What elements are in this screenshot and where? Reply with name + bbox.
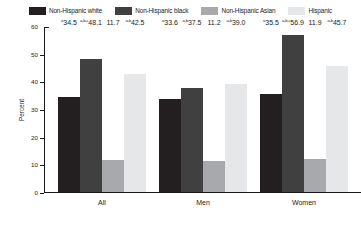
y-axis-tick: [40, 165, 44, 166]
legend-item-non-hispanic-asian: Non-Hispanic Asian: [201, 7, 275, 15]
bar-group-bars: a35.5a,b,c56.911.9a,b45.7: [260, 27, 348, 192]
bar[interactable]: [80, 59, 102, 192]
significance-superscript: a,b: [227, 18, 232, 23]
bar-value-label: a35.5: [263, 19, 279, 27]
y-axis-tick-label: 20: [31, 135, 38, 141]
significance-superscript: a,b: [183, 18, 188, 23]
legend-label-hispanic: Hispanic: [308, 8, 332, 14]
bar-column[interactable]: a33.6: [159, 27, 181, 192]
bar-column[interactable]: 11.7: [102, 27, 124, 192]
bar-value-label: a,b45.7: [328, 19, 347, 27]
legend-item-non-hispanic-black: Non-Hispanic black: [115, 7, 188, 15]
y-axis-tick-label: 50: [31, 52, 38, 58]
bar-column[interactable]: 11.9: [304, 27, 326, 192]
plot-area: Percent 0102030405060 a34.5a,b,c48.111.7…: [44, 27, 344, 193]
y-axis-tick: [40, 110, 44, 111]
significance-superscript: a,b: [328, 18, 333, 23]
bar-value-label: a,b,c48.1: [80, 19, 102, 27]
bar-group: a34.5a,b,c48.111.7a,b42.5All: [58, 27, 146, 192]
bar-value-label: a33.6: [162, 19, 178, 27]
x-axis-group-label: Women: [260, 192, 348, 206]
bar[interactable]: [260, 94, 282, 192]
chart-legend: Non-Hispanic white Non-Hispanic black No…: [0, 4, 361, 18]
bar[interactable]: [159, 99, 181, 192]
legend-swatch-non-hispanic-white: [29, 7, 46, 15]
y-axis-tick: [40, 55, 44, 56]
significance-superscript: a: [263, 18, 265, 23]
bar-value-label: 11.7: [106, 19, 119, 27]
bar[interactable]: [282, 35, 304, 192]
bar-group: a35.5a,b,c56.911.9a,b45.7Women: [260, 27, 348, 192]
x-axis-group-label: All: [58, 192, 146, 206]
legend-swatch-non-hispanic-black: [115, 7, 132, 15]
x-axis-group-label: Men: [159, 192, 247, 206]
bar-column[interactable]: 11.2: [203, 27, 225, 192]
bar[interactable]: [326, 66, 348, 192]
bar-column[interactable]: a,b42.5: [124, 27, 146, 192]
legend-label-non-hispanic-asian: Non-Hispanic Asian: [221, 8, 275, 14]
bar-column[interactable]: a,b45.7: [326, 27, 348, 192]
y-axis-title: Percent: [18, 99, 25, 121]
bar-value-label: 11.9: [308, 19, 321, 27]
y-axis-tick: [40, 82, 44, 83]
legend-item-non-hispanic-white: Non-Hispanic white: [29, 7, 102, 15]
bar-group: a33.6a,b37.511.2a,b39.0Men: [159, 27, 247, 192]
bar[interactable]: [102, 160, 124, 192]
bar[interactable]: [203, 161, 225, 192]
y-axis-tick: [40, 138, 44, 139]
legend-item-hispanic: Hispanic: [288, 7, 332, 15]
bar-value-label: a,b37.5: [183, 19, 202, 27]
bar-group-bars: a34.5a,b,c48.111.7a,b42.5: [58, 27, 146, 192]
bar-column[interactable]: a,b,c56.9: [282, 27, 304, 192]
bar-column[interactable]: a34.5: [58, 27, 80, 192]
bar-group-bars: a33.6a,b37.511.2a,b39.0: [159, 27, 247, 192]
bar-value-label: a34.5: [61, 19, 77, 27]
legend-label-non-hispanic-black: Non-Hispanic black: [135, 8, 188, 14]
bar-column[interactable]: a35.5: [260, 27, 282, 192]
significance-superscript: a: [61, 18, 63, 23]
bar-groups: a34.5a,b,c48.111.7a,b42.5Alla33.6a,b37.5…: [45, 27, 361, 192]
legend-swatch-hispanic: [288, 7, 305, 15]
significance-superscript: a,b,c: [80, 18, 88, 23]
bar-value-label: a,b,c56.9: [282, 19, 304, 27]
y-axis-tick-label: 0: [35, 190, 38, 196]
bar-column[interactable]: a,b37.5: [181, 27, 203, 192]
bar[interactable]: [181, 88, 203, 192]
legend-label-non-hispanic-white: Non-Hispanic white: [49, 8, 102, 14]
significance-superscript: a,b: [126, 18, 131, 23]
y-axis-tick-label: 30: [31, 107, 38, 113]
bar-column[interactable]: a,b39.0: [225, 27, 247, 192]
bar[interactable]: [124, 74, 146, 192]
bar-chart-figure: Non-Hispanic white Non-Hispanic black No…: [0, 0, 361, 228]
bar[interactable]: [304, 159, 326, 192]
bar[interactable]: [58, 97, 80, 192]
significance-superscript: a,b,c: [282, 18, 290, 23]
y-axis-tick: [40, 193, 44, 194]
bar-value-label: 11.2: [207, 19, 220, 27]
bar-value-label: a,b42.5: [126, 19, 145, 27]
significance-superscript: a: [162, 18, 164, 23]
bar-column[interactable]: a,b,c48.1: [80, 27, 102, 192]
y-axis-tick-label: 10: [31, 162, 38, 168]
bar[interactable]: [225, 84, 247, 192]
y-axis-tick-label: 60: [31, 24, 38, 30]
y-axis-tick-label: 40: [31, 79, 38, 85]
bar-value-label: a,b39.0: [227, 19, 246, 27]
legend-swatch-non-hispanic-asian: [201, 7, 218, 15]
